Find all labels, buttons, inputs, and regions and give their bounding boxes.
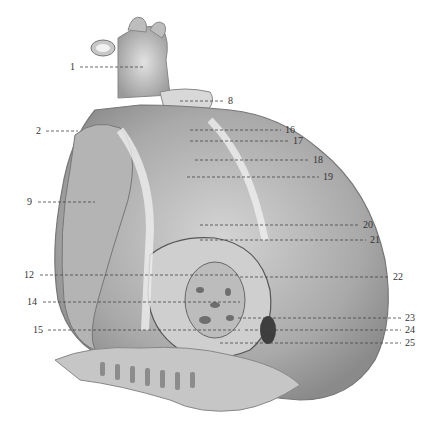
label-14: 14 [27, 297, 37, 307]
label-2: 2 [36, 126, 41, 136]
label-17: 17 [293, 136, 303, 146]
label-20: 20 [363, 220, 373, 230]
heart-illustration [0, 0, 439, 433]
label-23: 23 [405, 313, 415, 323]
label-8: 8 [228, 96, 233, 106]
label-18: 18 [313, 155, 323, 165]
label-15: 15 [33, 325, 43, 335]
label-16: 16 [285, 125, 295, 135]
label-21: 21 [370, 235, 380, 245]
label-24: 24 [405, 325, 415, 335]
great-vessels [91, 17, 213, 112]
label-12: 12 [24, 270, 34, 280]
label-25: 25 [405, 338, 415, 348]
label-19: 19 [323, 172, 333, 182]
label-1: 1 [70, 62, 75, 72]
label-9: 9 [27, 197, 32, 207]
label-22: 22 [393, 272, 403, 282]
